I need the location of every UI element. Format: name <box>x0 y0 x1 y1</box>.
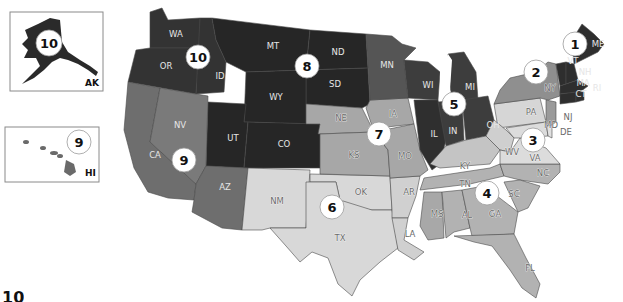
label-wi: WI <box>423 80 434 90</box>
region-10-number: 10 <box>189 50 207 65</box>
label-nh: NH <box>579 67 592 77</box>
lake-michigan <box>440 54 452 98</box>
us-regions-map: 10 AK 9 HI <box>0 0 623 302</box>
label-tx: TX <box>333 233 345 243</box>
cropped-footer-heading: 10 <box>2 290 24 302</box>
label-ca: CA <box>149 150 161 160</box>
label-ri: RI <box>593 83 601 93</box>
label-nm: NM <box>270 196 284 206</box>
label-md: MD <box>544 120 558 130</box>
label-ia: IA <box>389 109 398 119</box>
region-5-number: 5 <box>449 97 458 112</box>
label-co: CO <box>278 139 291 149</box>
region-2-number: 2 <box>531 65 540 80</box>
label-me: ME <box>592 39 605 49</box>
state-la[interactable] <box>392 218 424 260</box>
region-7 <box>306 98 428 178</box>
label-tn: TN <box>458 179 471 189</box>
label-wa: WA <box>169 29 183 39</box>
region-9-number: 9 <box>179 153 188 168</box>
label-pa: PA <box>526 107 537 117</box>
label-az: AZ <box>219 182 231 192</box>
label-ny: NY <box>544 83 556 93</box>
region-6 <box>242 168 424 296</box>
alaska-region-number: 10 <box>40 36 58 51</box>
region-8-number: 8 <box>302 59 311 74</box>
label-nj: NJ <box>564 112 573 122</box>
label-ga: GA <box>489 209 502 219</box>
alaska-inset: 10 AK <box>10 12 103 91</box>
label-ne: NE <box>335 113 347 123</box>
label-mo: MO <box>398 151 412 161</box>
label-mn: MN <box>380 60 394 70</box>
state-ct[interactable] <box>560 92 576 104</box>
label-il: IL <box>430 129 438 139</box>
label-ky: KY <box>460 161 471 171</box>
label-fl: FL <box>525 263 535 273</box>
hawaii-inset: 9 HI <box>5 127 99 182</box>
label-in: IN <box>449 126 458 136</box>
label-va: VA <box>529 153 540 163</box>
state-az[interactable] <box>192 166 248 230</box>
label-oh: OH <box>486 120 499 130</box>
label-de: DE <box>560 127 572 137</box>
label-vt: VT <box>567 56 579 66</box>
region-4-number: 4 <box>482 186 491 201</box>
label-la: LA <box>405 229 416 239</box>
label-mt: MT <box>267 41 280 51</box>
label-nd: ND <box>332 47 345 57</box>
label-ok: OK <box>355 187 368 197</box>
region-1-number: 1 <box>570 37 579 52</box>
label-sc: SC <box>508 189 519 199</box>
label-ks: KS <box>349 150 360 160</box>
label-al: AL <box>462 210 473 220</box>
region-6-number: 6 <box>327 200 336 215</box>
label-ms: MS <box>431 209 444 219</box>
label-ar: AR <box>403 187 415 197</box>
label-id: ID <box>215 71 225 81</box>
label-nv: NV <box>174 120 186 130</box>
hawaii-region-number: 9 <box>74 135 83 150</box>
label-wy: WY <box>269 92 283 102</box>
label-wv: WV <box>505 147 519 157</box>
label-or: OR <box>160 61 173 71</box>
region-7-number: 7 <box>374 127 383 142</box>
region-10 <box>128 8 226 94</box>
hawaii-label: HI <box>85 168 96 178</box>
label-ma: MA <box>576 78 589 88</box>
label-nc: NC <box>537 168 549 178</box>
label-ct: CT <box>575 89 587 99</box>
alaska-label: AK <box>85 78 100 88</box>
label-mi: MI <box>465 82 475 92</box>
label-sd: SD <box>329 79 341 89</box>
region-3-number: 3 <box>528 133 537 148</box>
state-ar[interactable] <box>390 176 420 218</box>
state-nc[interactable] <box>500 164 560 184</box>
label-ut: UT <box>227 133 239 143</box>
